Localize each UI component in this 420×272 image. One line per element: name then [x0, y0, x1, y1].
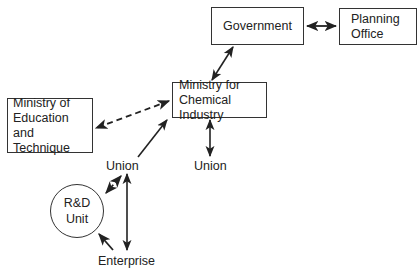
- node-ministry-education-line-3: Technique: [13, 141, 92, 156]
- node-ministry-chemical-line-1: Ministry for: [179, 78, 266, 93]
- edge-ministry-education: [96, 101, 169, 128]
- edge-rd-union: [106, 176, 121, 193]
- organization-diagram: Government Planning Office Ministry for …: [0, 0, 420, 272]
- node-union-right: Union: [194, 159, 227, 174]
- edge-enterprise-rd: [99, 234, 113, 250]
- node-ministry-education: Ministry of Education and Technique: [7, 98, 93, 153]
- node-enterprise: Enterprise: [98, 254, 155, 269]
- node-planning-office-line-1: Planning: [351, 12, 416, 27]
- node-planning-office: Planning Office: [339, 8, 417, 45]
- node-ministry-chemical-line-2: Chemical Industry: [179, 93, 266, 123]
- node-government-label: Government: [223, 19, 292, 34]
- node-ministry-chemical-industry: Ministry for Chemical Industry: [172, 82, 267, 118]
- node-government: Government: [211, 7, 304, 45]
- node-rd-unit: R&D Unit: [50, 184, 104, 238]
- node-ministry-education-line-2: Education and: [13, 111, 92, 141]
- node-rd-unit-line-1: R&D: [64, 195, 90, 211]
- node-union-left: Union: [106, 159, 139, 174]
- edge-government-ministry: [212, 47, 233, 80]
- node-ministry-education-line-1: Ministry of: [13, 96, 92, 111]
- node-rd-unit-line-2: Unit: [66, 211, 88, 227]
- edge-union-ministry: [138, 120, 167, 157]
- node-planning-office-line-2: Office: [351, 27, 416, 42]
